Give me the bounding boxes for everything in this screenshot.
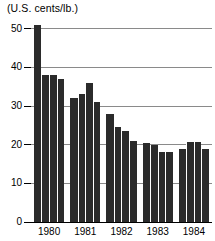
y-axis-tick	[24, 28, 31, 29]
y-axis-tick-label: 20	[11, 140, 22, 150]
x-axis-tick-label: 1980	[38, 226, 60, 238]
y-axis-tick	[24, 144, 31, 145]
bar	[49, 75, 57, 222]
y-axis-tick-label: 0	[16, 217, 22, 227]
bar	[78, 94, 86, 222]
bar-group	[34, 21, 64, 222]
x-axis-labels: 19801981198219831984	[31, 226, 212, 240]
bar	[41, 75, 49, 222]
bar	[85, 83, 93, 222]
x-axis-tick-label: 1983	[147, 226, 169, 238]
bar	[143, 143, 151, 222]
bar	[179, 149, 187, 222]
y-axis-tick-label: 30	[11, 101, 22, 111]
bar	[158, 152, 166, 222]
bar	[186, 142, 194, 222]
x-axis-tick-label: 1984	[183, 226, 205, 238]
y-axis-tick	[24, 222, 31, 223]
y-axis-tick-label: 10	[11, 178, 22, 188]
bar-group	[70, 21, 100, 222]
bar	[106, 114, 114, 222]
plot-area: 01020304050	[31, 21, 212, 222]
bar	[129, 141, 137, 222]
y-axis-tick	[24, 183, 31, 184]
y-axis-unit-caption: (U.S. cents/lb.)	[7, 2, 78, 15]
bar	[34, 25, 42, 222]
bar	[114, 127, 122, 222]
bar-group	[106, 21, 136, 222]
bar	[165, 152, 173, 222]
bar	[194, 142, 202, 222]
y-axis-tick-label: 50	[11, 24, 22, 34]
y-axis-tick	[24, 106, 31, 107]
bar	[57, 79, 65, 222]
y-axis-tick	[24, 67, 31, 68]
bar-chart: (U.S. cents/lb.) 01020304050 19801981198…	[0, 0, 215, 241]
bar	[93, 102, 101, 222]
bar	[201, 149, 209, 222]
bar-group	[179, 21, 209, 222]
y-axis-tick-label: 40	[11, 62, 22, 72]
bar	[121, 131, 129, 222]
bar	[150, 145, 158, 222]
bars-layer	[31, 21, 212, 222]
bar-group	[143, 21, 173, 222]
bar	[70, 98, 78, 222]
x-axis-tick-label: 1982	[110, 226, 132, 238]
x-axis-tick-label: 1981	[74, 226, 96, 238]
